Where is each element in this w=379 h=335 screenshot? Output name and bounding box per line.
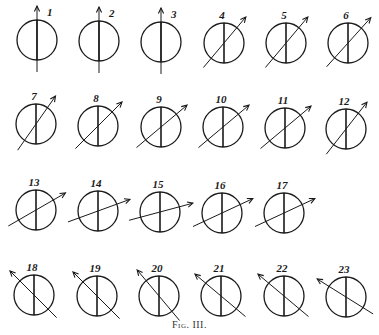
- figure-item-8: 8: [75, 92, 122, 149]
- figure-item-10: 10: [198, 93, 249, 148]
- figure-caption: Fig. III.: [0, 319, 379, 330]
- figure-number-label: 18: [27, 261, 39, 273]
- figure-number-label: 14: [91, 177, 103, 189]
- figure-number-label: 22: [276, 262, 289, 274]
- figure-number-label: 23: [338, 263, 351, 275]
- figure-item-3: 3: [141, 8, 181, 74]
- figure-item-9: 9: [136, 93, 187, 148]
- figure-item-21: 21: [195, 262, 246, 317]
- figure-item-13: 13: [8, 176, 65, 230]
- figure-number-label: 5: [281, 9, 287, 21]
- arrow-shaft: [8, 193, 65, 226]
- figure-item-16: 16: [193, 179, 253, 233]
- figure-number-label: 9: [156, 93, 162, 105]
- figure-item-5: 5: [265, 9, 307, 68]
- arrow-head-icon: [317, 279, 323, 284]
- figure-number-label: 2: [108, 7, 115, 19]
- figure-number-label: 10: [216, 93, 228, 105]
- figure-number-label: 1: [47, 6, 53, 18]
- figure-item-17: 17: [255, 179, 315, 233]
- figure-number-label: 7: [31, 90, 37, 102]
- figure-number-label: 8: [93, 92, 99, 104]
- figure-number-label: 3: [170, 8, 177, 20]
- figure-item-2: 2: [79, 7, 119, 73]
- figure-number-label: 4: [218, 9, 225, 21]
- figure-number-label: 15: [153, 178, 165, 190]
- figure-item-7: 7: [16, 90, 56, 150]
- figure-number-label: 19: [90, 262, 102, 274]
- figure-item-11: 11: [260, 94, 311, 149]
- figure-number-label: 17: [277, 179, 289, 191]
- figure-diagram: 1234567891011121314151617181920212223: [0, 0, 379, 335]
- figure-number-label: 20: [151, 262, 164, 274]
- figure-number-label: 6: [343, 9, 349, 21]
- figure-number-label: 21: [213, 262, 225, 274]
- figure-item-19: 19: [73, 262, 120, 319]
- figure-number-label: 11: [278, 94, 288, 106]
- figure-item-6: 6: [327, 9, 371, 67]
- figure-item-18: 18: [10, 261, 57, 318]
- figure-number-label: 16: [215, 179, 227, 191]
- figure-item-14: 14: [68, 177, 130, 231]
- figure-item-15: 15: [129, 178, 193, 232]
- figure-item-1: 1: [17, 6, 57, 72]
- figure-item-4: 4: [203, 9, 245, 68]
- figure-item-23: 23: [317, 263, 373, 317]
- figure-item-22: 22: [258, 262, 309, 317]
- figure-number-label: 12: [339, 95, 351, 107]
- arrow-shaft: [68, 199, 130, 222]
- arrow-shaft: [129, 203, 193, 220]
- figure-number-label: 13: [29, 176, 41, 188]
- figure-item-20: 20: [137, 262, 179, 321]
- figure-item-12: 12: [326, 95, 367, 154]
